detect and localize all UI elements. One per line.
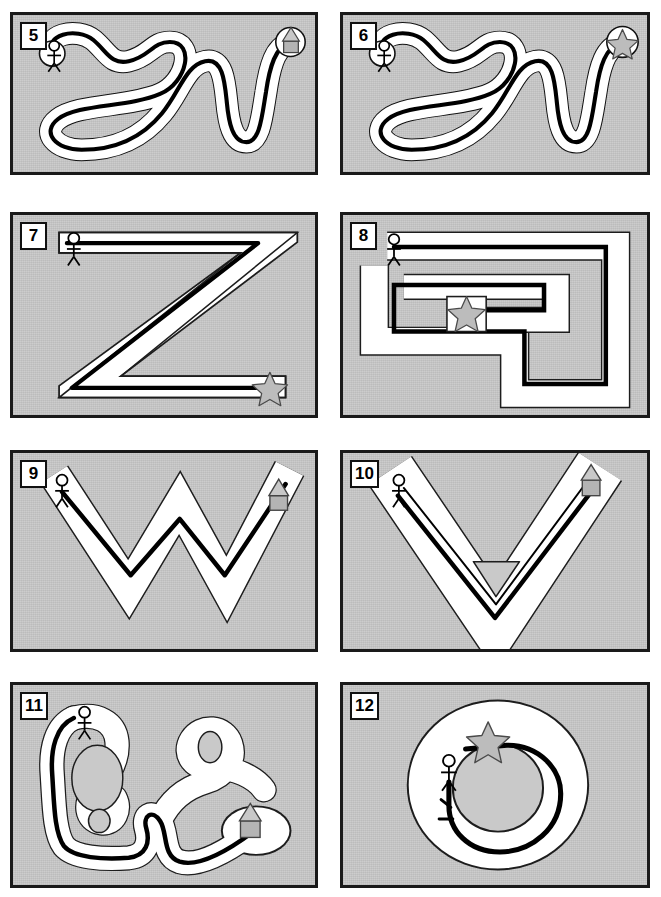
maze-panel-8[interactable]: 8: [340, 212, 650, 418]
panel-number-badge: 12: [350, 692, 379, 720]
maze-panel-10[interactable]: 10: [340, 450, 650, 652]
panel-number-badge: 11: [20, 692, 48, 720]
maze-panel-6[interactable]: 6: [340, 12, 650, 175]
maze-panel-12[interactable]: 12: [340, 682, 650, 888]
maze-panel-5[interactable]: 5: [10, 12, 318, 175]
z-corridor: [59, 232, 297, 397]
panel-number-badge: 10: [350, 460, 379, 488]
maze-graphic-10: [343, 453, 647, 649]
stick-figure-icon: [67, 233, 81, 266]
panel-number-badge: 8: [350, 222, 377, 250]
maze-panel-11[interactable]: 11: [10, 682, 318, 888]
panel-number-badge: 6: [350, 22, 377, 50]
stick-figure-icon: [387, 234, 401, 265]
maze-graphic-7: [13, 215, 315, 415]
panel-number-badge: 7: [20, 222, 47, 250]
panel-number-badge: 9: [20, 460, 47, 488]
maze-graphic-12: [343, 685, 647, 885]
maze-graphic-8: [343, 215, 647, 415]
worksheet-page: 5 6: [0, 0, 661, 897]
maze-graphic-6: [343, 15, 647, 172]
maze-panel-9[interactable]: 9: [10, 450, 318, 652]
maze-graphic-9: [13, 453, 315, 649]
maze-graphic-5: [13, 15, 315, 172]
stick-figure-icon: [78, 707, 92, 740]
maze-graphic-11: [13, 685, 315, 885]
panel-number-badge: 5: [20, 22, 47, 50]
maze-panel-7[interactable]: 7: [10, 212, 318, 418]
